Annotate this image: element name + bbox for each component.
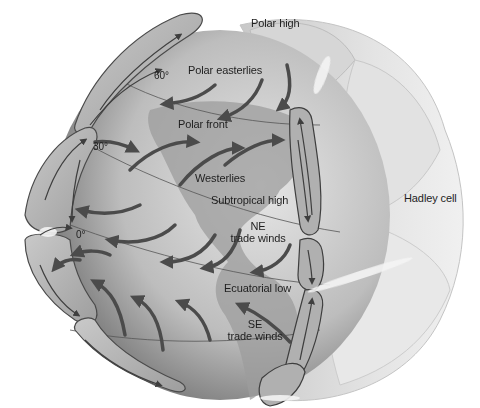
label-equatorial-low: Ecuatorial low xyxy=(224,282,291,294)
label-westerlies: Westerlies xyxy=(195,172,245,184)
label-subtropical-high: Subtropical high xyxy=(211,194,288,206)
latitude-30: 30° xyxy=(93,141,108,152)
label-ne-trade-winds: NE trade winds xyxy=(228,220,288,244)
latitude-60: 60° xyxy=(154,70,169,81)
label-se-trade-winds-line1: SE xyxy=(225,318,285,330)
label-polar-high: Polar high xyxy=(251,17,300,29)
label-ne-trade-winds-line1: NE xyxy=(228,220,288,232)
label-hadley-cell: Hadley cell xyxy=(404,192,457,204)
circulation-diagram: Polar high Polar easterlies Polar front … xyxy=(0,0,480,408)
label-polar-front: Polar front xyxy=(178,118,228,130)
label-se-trade-winds: SE trade winds xyxy=(225,318,285,342)
label-ne-trade-winds-line2: trade winds xyxy=(228,232,288,244)
label-se-trade-winds-line2: trade winds xyxy=(225,330,285,342)
latitude-0: 0° xyxy=(76,229,86,240)
label-polar-easterlies: Polar easterlies xyxy=(188,64,262,76)
